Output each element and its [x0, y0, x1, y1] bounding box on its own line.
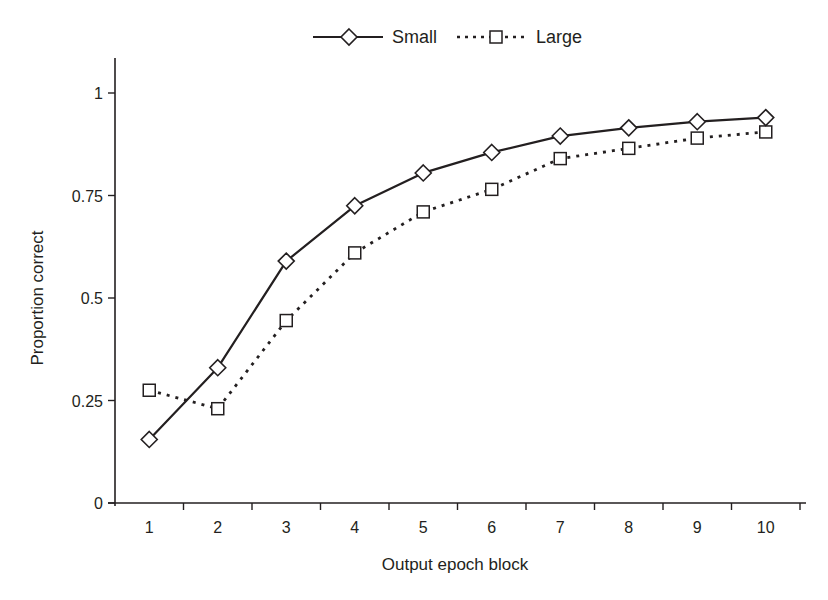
x-tick-label: 10: [757, 519, 775, 536]
x-tick-label: 8: [624, 519, 633, 536]
line-chart: Small Large 00.250.50.751 12345678910 Ou…: [0, 0, 828, 600]
y-tick-label: 1: [94, 85, 103, 102]
data-point-square: [349, 247, 361, 259]
x-tick-label: 7: [556, 519, 565, 536]
legend-item-small: Small: [313, 27, 437, 47]
legend-label-small: Small: [392, 27, 437, 47]
square-marker-icon: [490, 31, 502, 43]
data-point-square: [417, 206, 429, 218]
data-point-square: [212, 403, 224, 415]
y-tick-label: 0.75: [72, 188, 103, 205]
diamond-marker-icon: [341, 29, 357, 45]
data-point-diamond: [552, 128, 568, 144]
data-point-diamond: [621, 120, 637, 136]
legend-item-large: Large: [457, 27, 582, 47]
legend-label-large: Large: [536, 27, 582, 47]
x-tick-label: 1: [145, 519, 154, 536]
x-tick-label: 9: [693, 519, 702, 536]
data-point-square: [691, 132, 703, 144]
y-tick-label: 0: [94, 495, 103, 512]
data-point-square: [486, 183, 498, 195]
data-point-square: [554, 153, 566, 165]
x-axis: 12345678910: [108, 503, 806, 536]
legend: Small Large: [313, 27, 582, 47]
data-point-diamond: [484, 144, 500, 160]
y-tick-label: 0.25: [72, 393, 103, 410]
x-tick-label: 4: [350, 519, 359, 536]
x-axis-title: Output epoch block: [382, 555, 529, 574]
y-axis: 00.250.50.751: [72, 58, 115, 512]
x-tick-label: 3: [282, 519, 291, 536]
x-tick-label: 2: [213, 519, 222, 536]
data-point-square: [760, 126, 772, 138]
data-point-square: [143, 384, 155, 396]
data-point-diamond: [758, 110, 774, 126]
x-tick-label: 5: [419, 519, 428, 536]
y-axis-title: Proportion correct: [28, 230, 47, 365]
x-tick-label: 6: [487, 519, 496, 536]
data-point-square: [280, 315, 292, 327]
data-point-square: [623, 142, 635, 154]
y-tick-label: 0.5: [81, 290, 103, 307]
series-small: [141, 110, 774, 448]
data-point-diamond: [689, 114, 705, 130]
series-large: [143, 126, 772, 415]
data-point-diamond: [415, 165, 431, 181]
